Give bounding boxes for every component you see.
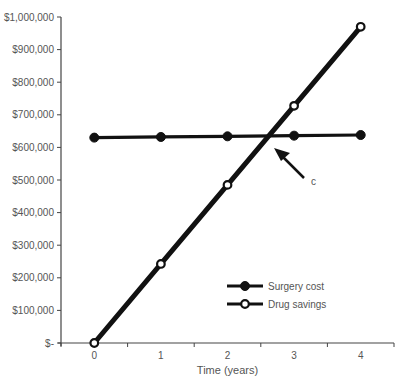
open-marker-icon <box>357 23 365 31</box>
y-tick-label: $1,000,000 <box>4 12 54 23</box>
y-tick-label: $500,000 <box>12 175 54 186</box>
filled-marker-icon <box>290 131 299 140</box>
filled-marker-icon <box>223 132 232 141</box>
y-axis-ticks: $-$100,000$200,000$300,000$400,000$500,0… <box>4 12 61 349</box>
filled-marker-icon <box>90 133 99 142</box>
open-marker-icon <box>91 339 99 347</box>
x-tick-label: 3 <box>291 350 297 361</box>
y-tick-label: $700,000 <box>12 109 54 120</box>
series-surgery-cost <box>90 131 365 143</box>
chart-svg: $-$100,000$200,000$300,000$400,000$500,0… <box>0 0 408 388</box>
open-marker-icon <box>241 300 249 308</box>
y-tick-label: $400,000 <box>12 207 54 218</box>
filled-marker-icon <box>156 132 165 141</box>
filled-marker-icon <box>356 131 365 140</box>
y-tick-label: $200,000 <box>12 272 54 283</box>
x-axis-ticks: 01234 <box>61 343 394 361</box>
legend: Surgery costDrug savings <box>227 281 326 310</box>
x-tick-label: 4 <box>358 350 364 361</box>
annotation-c: c <box>274 148 316 187</box>
x-tick-label: 1 <box>158 350 164 361</box>
break-even-chart: $-$100,000$200,000$300,000$400,000$500,0… <box>0 0 408 388</box>
open-marker-icon <box>290 102 298 110</box>
y-tick-label: $300,000 <box>12 240 54 251</box>
y-tick-label: $800,000 <box>12 77 54 88</box>
open-marker-icon <box>224 181 232 189</box>
filled-marker-icon <box>241 282 250 291</box>
legend-label: Surgery cost <box>268 281 324 292</box>
legend-label: Drug savings <box>268 299 326 310</box>
y-tick-label: $600,000 <box>12 142 54 153</box>
y-tick-label: $900,000 <box>12 44 54 55</box>
x-axis-title: Time (years) <box>197 364 258 376</box>
y-tick-label: $100,000 <box>12 305 54 316</box>
y-tick-label: $- <box>45 338 54 349</box>
open-marker-icon <box>157 260 165 268</box>
x-tick-label: 2 <box>225 350 231 361</box>
x-tick-label: 0 <box>92 350 98 361</box>
annotation-label: c <box>311 176 316 187</box>
